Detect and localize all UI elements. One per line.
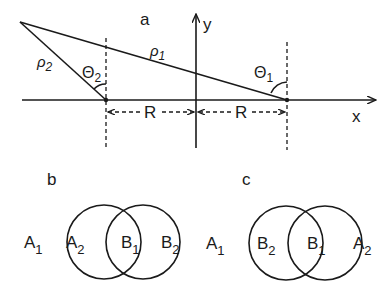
panel-b: b A1 A2 B1 B2 (24, 170, 180, 279)
r-left-label: R (144, 103, 156, 122)
rho1-line (20, 22, 287, 100)
label-outer-right: A2 (353, 234, 372, 258)
y-axis-label: y (203, 15, 212, 34)
x-axis-label: x (352, 107, 361, 126)
panel-a: a x y ρ2 ρ1 Θ2 Θ1 (20, 10, 376, 150)
theta1-label: Θ1 (254, 64, 273, 85)
label-outer-left: A1 (206, 234, 225, 258)
panel-c: c A1 B2 B1 A2 (206, 170, 372, 280)
r-right-label: R (235, 103, 247, 122)
panel-b-label: b (47, 170, 56, 189)
point-left (104, 98, 108, 102)
theta1-arc (271, 82, 287, 93)
point-right (285, 98, 289, 102)
label-inner-right: B1 (121, 233, 140, 257)
rho2-label: ρ2 (36, 53, 53, 74)
label-inner-left: B2 (257, 234, 276, 258)
label-outer-left: A1 (24, 233, 43, 257)
diagram-canvas: a x y ρ2 ρ1 Θ2 Θ1 (0, 0, 383, 293)
panel-c-label: c (242, 170, 251, 189)
panel-a-label: a (140, 10, 150, 29)
label-outer-right: B2 (161, 233, 180, 257)
rho2-line (20, 22, 106, 100)
